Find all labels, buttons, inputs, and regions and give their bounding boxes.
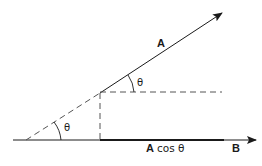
angle-arc-upper xyxy=(128,75,134,92)
vector-b-label: B xyxy=(232,142,240,154)
vector-a-extension-dashed xyxy=(26,93,100,140)
angle-upper-label: θ xyxy=(137,77,143,88)
vector-a-label: A xyxy=(157,37,165,49)
projection-a-text: A xyxy=(146,142,154,154)
vector-a-line xyxy=(100,13,222,93)
angle-arc-lower xyxy=(54,122,61,140)
vector-projection-diagram xyxy=(0,0,262,166)
projection-cos-text: cos θ xyxy=(157,142,184,154)
angle-lower-label: θ xyxy=(64,122,70,133)
projection-label: A cos θ xyxy=(146,142,184,154)
